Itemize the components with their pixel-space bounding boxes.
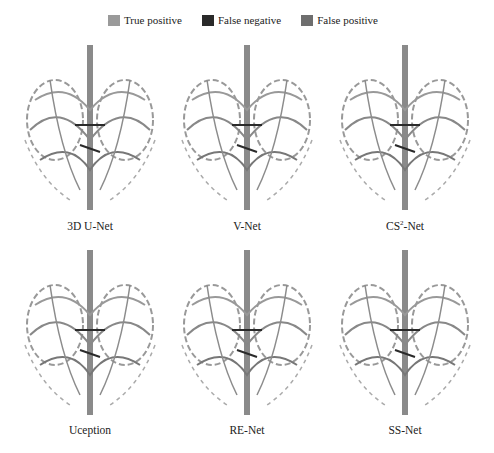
false-positive-swatch <box>301 15 313 26</box>
panel-label-cs2net: CS2-Net <box>335 219 475 232</box>
panel-label: SS-Net <box>335 424 475 436</box>
panel-ssnet <box>335 245 475 420</box>
legend-label: False negative <box>218 14 281 26</box>
panel-label: RE-Net <box>177 424 317 436</box>
legend-item-false-positive: False positive <box>301 14 378 26</box>
panel-label: Uception <box>20 424 160 436</box>
legend-label: False positive <box>317 14 378 26</box>
panel-label: V-Net <box>177 220 317 232</box>
legend-item-false-negative: False negative <box>202 14 281 26</box>
panel-vnet <box>177 40 317 215</box>
panel-renet <box>177 245 317 420</box>
legend: True positive False negative False posit… <box>108 14 378 26</box>
legend-item-true-positive: True positive <box>108 14 182 26</box>
label-base: CS <box>386 220 400 232</box>
panel-cs2net <box>335 40 475 215</box>
legend-label: True positive <box>124 14 182 26</box>
label-suffix: -Net <box>404 220 424 232</box>
panel-uception <box>20 245 160 420</box>
false-negative-swatch <box>202 15 214 26</box>
panel-label: 3D U-Net <box>20 220 160 232</box>
panel-3d-unet <box>20 40 160 215</box>
true-positive-swatch <box>108 15 120 26</box>
